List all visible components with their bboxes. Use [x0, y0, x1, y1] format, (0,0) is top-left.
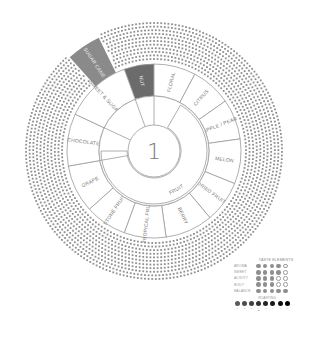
roast-level-label: 5	[263, 307, 268, 310]
filled-dot-icon	[270, 270, 275, 275]
roast-level-dot-icon	[278, 301, 283, 306]
filled-dot-icon	[276, 289, 281, 294]
roast-level-dot-icon	[249, 301, 254, 306]
roast-level-dot-icon	[235, 301, 240, 306]
filled-dot-icon	[263, 282, 268, 287]
rating-dots	[256, 289, 288, 294]
roast-level-label: 7	[278, 307, 283, 310]
filled-dot-icon	[270, 276, 275, 281]
empty-dot-icon	[283, 282, 288, 287]
filled-dot-icon	[283, 289, 288, 294]
legend-row-label: BODY	[234, 283, 256, 287]
rating-dots	[256, 270, 288, 275]
roasting-scale-labels: 12345678	[235, 307, 300, 310]
roast-level-label: 3	[249, 307, 254, 310]
legend-row-label: AROMA	[234, 264, 256, 268]
center-number: 1	[147, 139, 161, 164]
roast-level-dot-icon	[256, 301, 261, 306]
legend-row-balance: BALANCE	[234, 288, 300, 294]
filled-dot-icon	[256, 289, 261, 294]
filled-dot-icon	[256, 264, 261, 269]
filled-dot-icon	[263, 264, 268, 269]
roast-level-label: 6	[270, 307, 275, 310]
filled-dot-icon	[256, 282, 261, 287]
roast-level-label: 1	[235, 307, 240, 310]
filled-dot-icon	[270, 264, 275, 269]
legend-row-label: BALANCE	[234, 289, 256, 293]
filled-dot-icon	[263, 276, 268, 281]
filled-dot-icon	[270, 282, 275, 287]
rating-dots	[256, 276, 288, 281]
filled-dot-icon	[263, 270, 268, 275]
empty-dot-icon	[283, 264, 288, 269]
empty-dot-icon	[283, 270, 288, 275]
roast-level-dot-icon	[263, 301, 268, 306]
filled-dot-icon	[263, 289, 268, 294]
legend-row-label: SWEET	[234, 270, 256, 274]
filled-dot-icon	[256, 270, 261, 275]
legend-title: TASTE ELEMENTS	[252, 258, 300, 263]
taste-element-rows: AROMASWEETACIDITYBODYBALANCE	[234, 263, 300, 294]
roast-level-label: 4	[256, 307, 261, 310]
roast-level-dot-icon	[270, 301, 275, 306]
empty-dot-icon	[276, 282, 281, 287]
filled-dot-icon	[270, 289, 275, 294]
empty-dot-icon	[276, 276, 281, 281]
empty-dot-icon	[283, 276, 288, 281]
rating-dots	[256, 282, 288, 287]
filled-dot-icon	[276, 270, 281, 275]
filled-dot-icon	[276, 264, 281, 269]
roast-level-label: 8	[285, 307, 290, 310]
filled-dot-icon	[256, 276, 261, 281]
legend: TASTE ELEMENTS AROMASWEETACIDITYBODYBALA…	[234, 258, 300, 310]
roast-level-dot-icon	[242, 301, 247, 306]
roast-level-dot-icon	[285, 301, 290, 306]
rating-dots	[256, 264, 288, 269]
roast-level-label: 2	[242, 307, 247, 310]
roasting-scale	[235, 301, 300, 306]
legend-row-label: ACIDITY	[234, 276, 256, 280]
